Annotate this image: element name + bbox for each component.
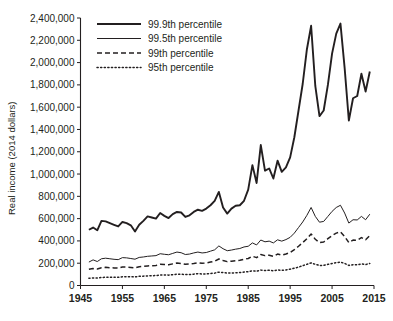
x-tick-label: 1955 bbox=[111, 292, 135, 304]
x-tick-label: 1965 bbox=[153, 292, 177, 304]
legend-label: 99.5th percentile bbox=[148, 33, 222, 44]
y-tick-label: 600,000 bbox=[38, 213, 75, 224]
legend-label: 99.9th percentile bbox=[148, 19, 222, 30]
x-tick-label: 2015 bbox=[362, 292, 386, 304]
y-tick-label: 1,000,000 bbox=[30, 169, 75, 180]
y-tick-label: 1,600,000 bbox=[30, 102, 75, 113]
legend-label: 95th percentile bbox=[148, 62, 214, 73]
x-tick-label: 1985 bbox=[237, 292, 261, 304]
data-series-group bbox=[89, 24, 370, 279]
y-axis-label-text: Real income (2014 dollars) bbox=[6, 101, 17, 215]
y-tick-label: 400,000 bbox=[38, 235, 75, 246]
y-axis-ticks: 0200,000400,000600,000800,0001,000,0001,… bbox=[30, 13, 81, 292]
y-tick-label: 2,400,000 bbox=[30, 13, 75, 24]
y-tick-label: 200,000 bbox=[38, 258, 75, 269]
legend-label: 99th percentile bbox=[148, 48, 214, 59]
y-tick-label: 800,000 bbox=[38, 191, 75, 202]
y-axis-label: Real income (2014 dollars) bbox=[6, 101, 17, 215]
series-line bbox=[89, 205, 370, 262]
x-tick-label: 2005 bbox=[320, 292, 344, 304]
y-tick-label: 0 bbox=[69, 280, 75, 291]
y-tick-label: 1,800,000 bbox=[30, 79, 75, 90]
x-tick-label: 1975 bbox=[195, 292, 219, 304]
y-tick-label: 1,400,000 bbox=[30, 124, 75, 135]
x-axis-ticks: 19451955196519751985199520052015 bbox=[69, 286, 386, 304]
chart-legend: 99.9th percentile99.5th percentile99th p… bbox=[97, 19, 222, 74]
series-line bbox=[89, 262, 370, 278]
x-tick-label: 1995 bbox=[278, 292, 302, 304]
income-percentile-line-chart: Real income (2014 dollars) 0200,000400,0… bbox=[0, 0, 393, 321]
x-tick-label: 1945 bbox=[69, 292, 93, 304]
y-tick-label: 2,000,000 bbox=[30, 57, 75, 68]
y-tick-label: 2,200,000 bbox=[30, 35, 75, 46]
chart-container: Real income (2014 dollars) 0200,000400,0… bbox=[0, 0, 393, 321]
series-line bbox=[89, 24, 370, 232]
y-tick-label: 1,200,000 bbox=[30, 146, 75, 157]
